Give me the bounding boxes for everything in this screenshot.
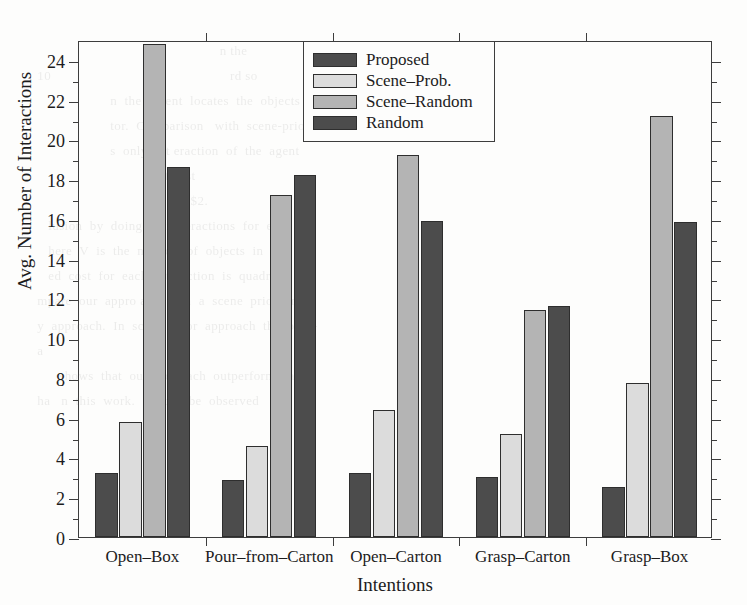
bar xyxy=(119,422,142,537)
x-tick-label: Open–Box xyxy=(106,547,180,567)
y-tick-minor xyxy=(73,479,79,480)
y-tick-label: 12 xyxy=(47,290,65,311)
y-tick-minor-right xyxy=(711,519,717,520)
y-tick-minor xyxy=(73,400,79,401)
y-tick-minor xyxy=(73,122,79,123)
x-tick xyxy=(459,537,460,546)
y-tick-major xyxy=(69,420,79,421)
y-tick-minor xyxy=(73,360,79,361)
x-tick-label: Pour–from–Carton xyxy=(205,547,333,567)
y-tick-minor xyxy=(73,201,79,202)
x-tick xyxy=(586,537,587,546)
y-tick-label: 0 xyxy=(56,529,65,550)
y-tick-major xyxy=(69,539,79,540)
y-tick-label: 14 xyxy=(47,250,65,271)
y-tick-minor xyxy=(73,161,79,162)
bar xyxy=(143,44,166,537)
bar xyxy=(421,221,444,537)
y-tick-major xyxy=(69,300,79,301)
y-tick-minor-right xyxy=(711,281,717,282)
bar xyxy=(222,480,245,537)
y-tick-major-right xyxy=(711,300,721,301)
y-axis-title: Avg. Number of Interactions xyxy=(14,72,36,290)
bar xyxy=(246,446,269,537)
y-tick-minor-right xyxy=(711,161,717,162)
y-tick-label: 24 xyxy=(47,51,65,72)
bar xyxy=(548,306,571,537)
y-tick-minor xyxy=(73,519,79,520)
y-tick-label: 22 xyxy=(47,91,65,112)
y-tick-minor-right xyxy=(711,82,717,83)
legend-item: Random xyxy=(313,112,485,133)
bar xyxy=(626,383,649,537)
y-tick-major-right xyxy=(711,261,721,262)
x-tick xyxy=(333,537,334,546)
bar xyxy=(500,434,523,537)
y-tick-major xyxy=(69,459,79,460)
y-tick-minor-right xyxy=(711,360,717,361)
y-tick-major-right xyxy=(711,499,721,500)
y-tick-major-right xyxy=(711,539,721,540)
y-tick-label: 10 xyxy=(47,330,65,351)
x-tick-label: Grasp–Carton xyxy=(475,547,570,567)
y-tick-minor-right xyxy=(711,320,717,321)
legend-item: Scene–Prob. xyxy=(313,70,485,91)
y-tick-major xyxy=(69,340,79,341)
y-tick-major xyxy=(69,181,79,182)
figure-page: n the 10 rd so n the ag ent locates the … xyxy=(0,0,747,605)
y-tick-label: 18 xyxy=(47,171,65,192)
y-tick-major-right xyxy=(711,459,721,460)
y-tick-major xyxy=(69,221,79,222)
y-tick-minor xyxy=(73,82,79,83)
y-tick-major-right xyxy=(711,221,721,222)
legend: ProposedScene–Prob.Scene–RandomRandom xyxy=(303,41,495,142)
legend-swatch xyxy=(313,95,357,109)
y-tick-label: 2 xyxy=(56,489,65,510)
bar xyxy=(167,167,190,537)
y-tick-label: 4 xyxy=(56,449,65,470)
legend-item: Scene–Random xyxy=(313,91,485,112)
legend-label: Random xyxy=(366,114,424,131)
bar xyxy=(95,473,118,537)
legend-item: Proposed xyxy=(313,49,485,70)
legend-label: Scene–Prob. xyxy=(366,72,451,89)
y-tick-major-right xyxy=(711,62,721,63)
legend-label: Scene–Random xyxy=(366,93,473,110)
y-tick-minor-right xyxy=(711,479,717,480)
legend-label: Proposed xyxy=(366,51,429,68)
y-tick-label: 20 xyxy=(47,131,65,152)
bar xyxy=(294,175,317,537)
bar xyxy=(373,410,396,537)
legend-swatch xyxy=(313,116,357,130)
y-tick-minor-right xyxy=(711,241,717,242)
y-tick-minor-right xyxy=(711,201,717,202)
x-axis-title: Intentions xyxy=(78,574,712,596)
legend-swatch xyxy=(313,53,357,67)
y-tick-major-right xyxy=(711,141,721,142)
y-tick-label: 6 xyxy=(56,409,65,430)
bar xyxy=(349,473,372,537)
y-tick-minor xyxy=(73,440,79,441)
y-tick-major xyxy=(69,141,79,142)
y-tick-minor xyxy=(73,281,79,282)
bar xyxy=(602,487,625,537)
y-tick-major-right xyxy=(711,181,721,182)
bar xyxy=(397,155,420,537)
y-tick-major xyxy=(69,380,79,381)
y-tick-minor xyxy=(73,241,79,242)
bar xyxy=(476,477,499,537)
bar xyxy=(524,310,547,537)
bar xyxy=(650,116,673,537)
y-tick-major-right xyxy=(711,420,721,421)
bar xyxy=(674,222,697,537)
y-tick-major-right xyxy=(711,340,721,341)
y-tick-label: 16 xyxy=(47,210,65,231)
y-tick-major xyxy=(69,499,79,500)
y-tick-major-right xyxy=(711,102,721,103)
y-tick-major-right xyxy=(711,380,721,381)
x-tick-top xyxy=(586,33,587,42)
y-tick-major xyxy=(69,261,79,262)
x-tick-top xyxy=(206,33,207,42)
y-tick-minor xyxy=(73,320,79,321)
bar xyxy=(270,195,293,537)
